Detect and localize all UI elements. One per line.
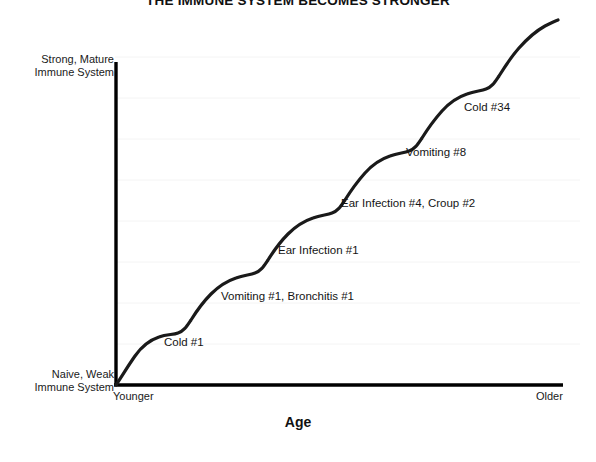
annotation-vomiting-1-bronchitis-1: Vomiting #1, Bronchitis #1 <box>221 290 354 302</box>
x-axis-left-tick-label: Younger <box>113 390 154 402</box>
annotation-cold-34: Cold #34 <box>464 101 510 113</box>
y-axis-top-label: Strong, Mature Immune System <box>35 53 114 79</box>
y-axis-bottom-label: Naive, Weak Immune System <box>35 368 114 394</box>
annotation-vomiting-8: Vomiting #8 <box>406 146 466 158</box>
y-axis-top-label-line2: Immune System <box>35 66 114 79</box>
x-axis-right-tick-label: Older <box>536 390 563 402</box>
annotation-ear-infection-4-croup-2: Ear Infection #4, Croup #2 <box>341 197 475 209</box>
annotation-cold-1: Cold #1 <box>164 336 204 348</box>
y-axis-bottom-label-line2: Immune System <box>35 381 114 394</box>
immune-strength-curve <box>116 20 558 385</box>
x-axis-title: Age <box>0 414 596 430</box>
y-axis-bottom-label-line1: Naive, Weak <box>35 368 114 381</box>
chart-container: THE IMMUNE SYSTEM BECOMES STRONGER Stron… <box>0 0 596 462</box>
y-axis-top-label-line1: Strong, Mature <box>35 53 114 66</box>
annotation-ear-infection-1: Ear Infection #1 <box>278 244 359 256</box>
